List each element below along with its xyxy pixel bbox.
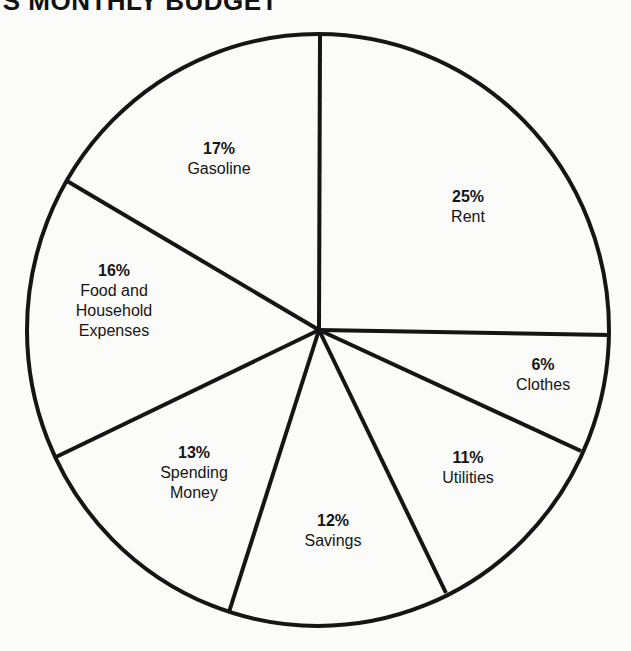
- slice-label-savings: 12% Savings: [305, 511, 362, 551]
- slice-label-clothes: 6% Clothes: [516, 355, 570, 395]
- slice-name-line3: Expenses: [76, 321, 153, 341]
- slice-name-line2: Money: [160, 483, 228, 503]
- slice-pct: 17%: [187, 139, 250, 159]
- slice-name: Clothes: [516, 375, 570, 395]
- slice-name: Utilities: [442, 468, 494, 488]
- slice-name-line1: Spending: [160, 463, 228, 483]
- slice-label-gasoline: 17% Gasoline: [187, 139, 250, 179]
- divider-savings-spending: [229, 330, 319, 612]
- slice-pct: 25%: [451, 187, 485, 207]
- slice-name: Savings: [305, 531, 362, 551]
- slice-name: Gasoline: [187, 159, 250, 179]
- slice-label-utilities: 11% Utilities: [442, 448, 494, 488]
- divider-utilities-savings: [319, 330, 446, 593]
- slice-pct: 11%: [442, 448, 494, 468]
- divider-rent-gasoline: [319, 34, 320, 330]
- slice-label-rent: 25% Rent: [451, 187, 485, 227]
- slice-label-food-household: 16% Food and Household Expenses: [76, 261, 153, 341]
- slice-name-line2: Household: [76, 301, 153, 321]
- divider-spending-food: [56, 330, 319, 457]
- slice-label-spending-money: 13% Spending Money: [160, 443, 228, 503]
- slice-pct: 6%: [516, 355, 570, 375]
- slice-pct: 12%: [305, 511, 362, 531]
- slice-name-line1: Food and: [76, 281, 153, 301]
- slice-name: Rent: [451, 207, 485, 227]
- slice-pct: 16%: [76, 261, 153, 281]
- divider-rent-clothes: [319, 330, 609, 335]
- slice-pct: 13%: [160, 443, 228, 463]
